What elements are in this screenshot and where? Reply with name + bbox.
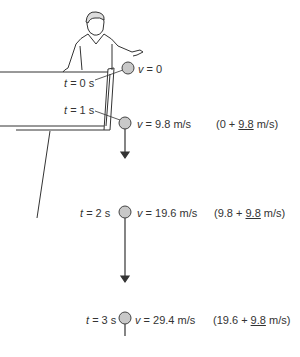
balls bbox=[119, 62, 134, 324]
calc-label-2: (9.8 + 9.8 m/s) bbox=[214, 207, 285, 219]
leader-lines bbox=[95, 70, 123, 120]
calc-label-3: (19.6 + 9.8 m/s) bbox=[213, 314, 290, 326]
time-label-3: t = 3 s bbox=[86, 314, 116, 326]
ball-t3 bbox=[119, 312, 131, 324]
falling-ball-diagram bbox=[0, 0, 300, 357]
time-label-1: t = 1 s bbox=[64, 104, 94, 116]
ball-t2 bbox=[119, 206, 131, 218]
velocity-label-1: v = 9.8 m/s bbox=[137, 118, 191, 130]
calc-label-1: (0 + 9.8 m/s) bbox=[216, 118, 278, 130]
ball-t0 bbox=[122, 62, 134, 74]
time-label-0: t = 0 s bbox=[64, 77, 94, 89]
time-label-2: t = 2 s bbox=[80, 207, 110, 219]
trajectory bbox=[121, 128, 129, 336]
ball-t1 bbox=[119, 117, 131, 129]
building bbox=[0, 68, 114, 218]
velocity-label-0: v = 0 bbox=[138, 63, 162, 75]
velocity-label-2: v = 19.6 m/s bbox=[137, 207, 197, 219]
velocity-label-3: v = 29.4 m/s bbox=[135, 314, 195, 326]
